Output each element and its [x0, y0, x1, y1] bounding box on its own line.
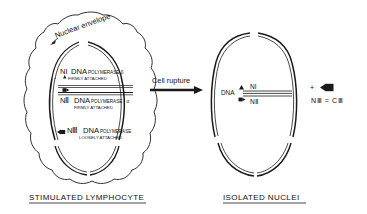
figure-canvas: Nuclear envelope NI DNA POLYMERASE-β FIR…	[0, 0, 367, 214]
released-flag-marker-icon	[320, 84, 334, 92]
cell-rupture-label: Cell rupture	[152, 76, 190, 85]
right-panel-caption: ISOLATED NUCLEI	[223, 193, 300, 202]
isolated-nucleus-arc-top-right-inner	[258, 36, 289, 64]
isolated-nucleus-arc-left	[211, 62, 216, 137]
left-panel-caption: STIMULATED LYMPHOCYTE	[29, 193, 144, 202]
isolated-nucleus-arc-right	[292, 63, 297, 137]
isolated-nucleus-arc-bottom-left	[218, 143, 254, 176]
entry-attachment-2: FIRMLY ATTACHED	[74, 105, 113, 110]
entry-name-1: NI	[60, 67, 68, 76]
transition-arrow-group: Cell rupture	[150, 76, 203, 94]
bound-triangle-marker-icon	[239, 85, 244, 90]
entry-attachment-1: FIRMLY ATTACHED	[68, 76, 107, 81]
nuclear-envelope-label: Nuclear envelope	[54, 11, 112, 39]
entry-name-3: NⅢ	[67, 126, 78, 135]
bound-name-1: NI	[250, 83, 257, 90]
nucleus-arc-bottom-left-inner	[58, 146, 87, 172]
nucleus-arc-left-inner	[53, 78, 58, 140]
entry-detail-3: POLYMERASE	[100, 129, 131, 134]
bound-square-marker-icon	[239, 98, 246, 102]
isolated-nucleus-arc-left-inner	[214, 63, 219, 136]
cell-rupture-arrowhead	[194, 86, 203, 94]
isolated-nucleus-arc-right-inner	[289, 64, 294, 136]
entry-name-2: NⅡ	[60, 96, 69, 105]
cell-membrane-outline	[24, 12, 157, 183]
entry-detail-2: POLYMERASE - α	[91, 99, 129, 104]
square-marker-icon	[63, 88, 70, 92]
left-panel: Nuclear envelope NI DNA POLYMERASE-β FIR…	[24, 11, 157, 203]
nucleus-arc-bottom-right-inner	[90, 146, 116, 172]
isolated-nucleus-arc-bottom-left-inner	[221, 143, 254, 173]
plus-sign: +	[310, 84, 314, 91]
entry-attachment-3: LOOSELY ATTACHED	[79, 135, 122, 140]
released-equation: NⅢ = CⅢ	[311, 97, 343, 104]
dna-label: DNA	[221, 89, 235, 96]
bound-name-2: NⅡ	[250, 98, 258, 105]
entry-detail-1: POLYMERASE-β	[88, 70, 124, 75]
isolated-nucleus-arc-bottom-right-inner	[257, 143, 288, 173]
right-panel: DNA NI NⅡ + NⅢ = CⅢ ISOLATED NUCLEI	[211, 33, 343, 203]
isolated-nucleus-arc-top-left-inner	[219, 36, 250, 63]
flag-marker-icon	[57, 130, 65, 135]
